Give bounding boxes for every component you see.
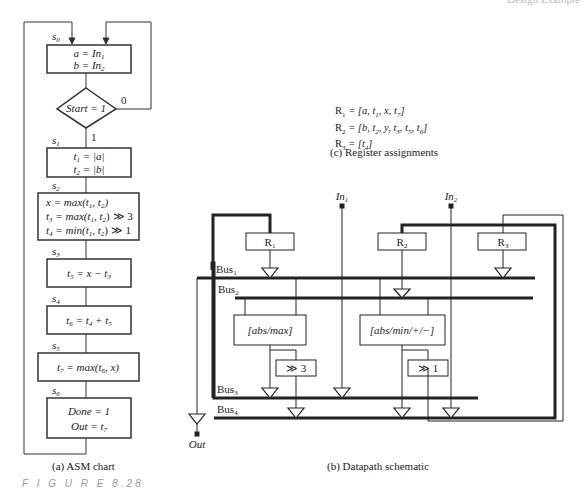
bus3-label: Bus3: [217, 383, 238, 397]
s6-line-1: Done = 1: [67, 405, 110, 417]
s3-line-1: t5 = x − t3: [67, 267, 111, 281]
state-label-s2: s2: [52, 179, 60, 193]
s6-line-2: Out = t7: [71, 420, 107, 434]
state-label-s1: s1: [52, 134, 60, 148]
s5-line-1: t7 = max(t6, x): [57, 361, 119, 375]
figure-label: F I G U R E 8.28: [22, 478, 144, 489]
s0-line-2: b = In2: [73, 59, 105, 73]
datapath-schematic: [189, 204, 563, 436]
state-label-s0: s0: [52, 30, 60, 44]
s1-line-2: t2 = |b|: [73, 163, 104, 177]
s4-line-1: t6 = t4 + t5: [66, 314, 112, 328]
register-assignment-r1: R1 = [a, t1, x, t7]: [335, 105, 427, 122]
register-r2-label: R2: [397, 236, 408, 250]
register-r1-label: R1: [265, 236, 276, 250]
shifter-3-label: ≫ 3: [286, 362, 307, 374]
s1-line-1: t1 = |a|: [73, 150, 104, 164]
s2-line-1: x = max(t1, t2): [45, 196, 108, 210]
output-out-label: Out: [189, 438, 206, 450]
bus1-label: Bus1: [216, 263, 237, 277]
in1-terminal: [340, 204, 344, 208]
asm-chart: [24, 22, 151, 454]
buffer-out: [189, 414, 205, 424]
register-r3-label: R3: [498, 236, 509, 250]
bus4-label: Bus4: [217, 403, 238, 417]
state-label-s3: s3: [52, 245, 60, 259]
s2-line-3: t4 = min(t1, t2) ≫ 1: [46, 224, 131, 238]
shifter-1-label: ≫ 1: [418, 362, 438, 374]
figure-canvas: s0 s1 s2 s3 s4 s5 s6 a = In1 b = In2 Sta…: [0, 0, 588, 491]
register-assignments-caption: (c) Register assignments: [330, 146, 438, 158]
input-in1-label: In1: [335, 190, 349, 204]
datapath-labels: R1 R2 R3 Bus1 Bus2 Bus3 Bus4 [abs/max] […: [189, 190, 509, 450]
datapath-caption: (b) Datapath schematic: [327, 460, 429, 472]
asm-chart-caption: (a) ASM chart: [52, 460, 115, 472]
s2-line-2: t3 = max(t1, t2) ≫ 3: [46, 210, 133, 224]
state-label-s4: s4: [52, 292, 60, 306]
input-in2-label: In2: [444, 190, 458, 204]
unit-absmin-label: [abs/min/+/−]: [370, 324, 434, 336]
decision-true-label: 1: [91, 131, 97, 143]
state-label-s6: s6: [52, 384, 60, 398]
decision-false-label: 0: [121, 94, 127, 106]
decision-condition: Start = 1: [66, 102, 106, 114]
in2-terminal: [449, 204, 453, 208]
register-assignment-r2: R2 = [b, t2, y, t3, t5, t6]: [335, 122, 427, 139]
state-label-s5: s5: [52, 339, 60, 353]
unit-absmax-label: [abs/max]: [247, 324, 292, 336]
out-terminal: [195, 432, 199, 436]
bus2-label: Bus2: [218, 283, 239, 297]
